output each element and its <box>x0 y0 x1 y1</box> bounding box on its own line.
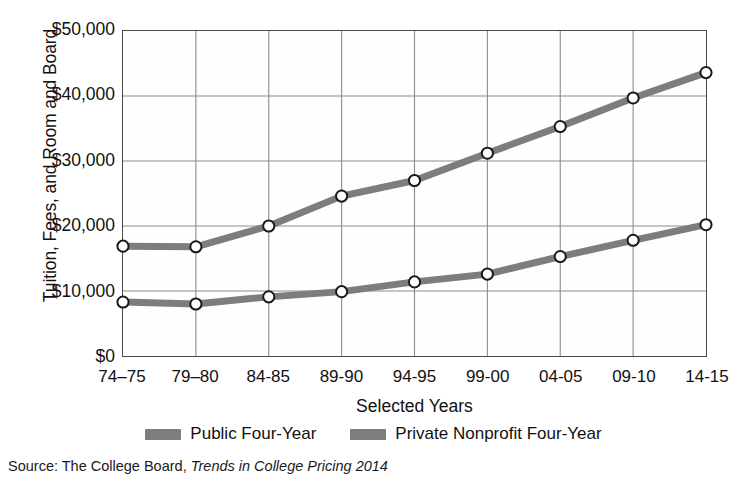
data-point-marker <box>117 241 128 252</box>
source-note: Source: The College Board, Trends in Col… <box>8 458 388 474</box>
y-tick-label: $0 <box>0 346 115 367</box>
source-title: Trends in College Pricing 2014 <box>191 458 388 474</box>
data-point-marker <box>700 219 711 230</box>
legend-label: Public Four-Year <box>190 424 316 444</box>
legend-item[interactable]: Private Nonprofit Four-Year <box>350 424 601 444</box>
chart-figure: Tuition, Fees, and Room and Board $0$10,… <box>0 0 747 484</box>
x-tick-label: 89-90 <box>320 367 363 387</box>
chart-legend: Public Four-YearPrivate Nonprofit Four-Y… <box>0 424 747 444</box>
x-tick-label: 14-15 <box>685 367 728 387</box>
legend-item[interactable]: Public Four-Year <box>145 424 316 444</box>
data-point-marker <box>628 92 639 103</box>
y-tick-label: $50,000 <box>0 19 115 40</box>
x-tick-label: 79–80 <box>171 367 218 387</box>
x-tick-label: 04-05 <box>539 367 582 387</box>
x-tick-label: 99-00 <box>466 367 509 387</box>
data-point-marker <box>482 269 493 280</box>
legend-label: Private Nonprofit Four-Year <box>395 424 601 444</box>
y-tick-label: $20,000 <box>0 215 115 236</box>
x-tick-label: 74–75 <box>98 367 145 387</box>
data-point-marker <box>628 235 639 246</box>
data-point-marker <box>336 191 347 202</box>
data-point-marker <box>555 121 566 132</box>
data-point-marker <box>190 298 201 309</box>
data-point-marker <box>409 276 420 287</box>
legend-swatch-icon <box>145 429 181 440</box>
data-point-marker <box>409 175 420 186</box>
y-tick-label: $30,000 <box>0 150 115 171</box>
data-point-marker <box>190 241 201 252</box>
source-prefix: Source: The College Board, <box>8 458 187 474</box>
data-point-marker <box>263 220 274 231</box>
x-tick-label: 09-10 <box>612 367 655 387</box>
x-axis-title: Selected Years <box>122 396 707 417</box>
x-tick-label: 84-85 <box>247 367 290 387</box>
plot-area <box>122 30 707 357</box>
x-tick-label: 94-95 <box>393 367 436 387</box>
data-point-marker <box>700 67 711 78</box>
data-point-marker <box>117 296 128 307</box>
plot-svg <box>123 31 706 356</box>
legend-swatch-icon <box>350 429 386 440</box>
data-point-marker <box>555 251 566 262</box>
y-tick-label: $10,000 <box>0 281 115 302</box>
data-point-marker <box>263 291 274 302</box>
data-point-marker <box>482 148 493 159</box>
y-tick-label: $40,000 <box>0 84 115 105</box>
data-point-marker <box>336 286 347 297</box>
